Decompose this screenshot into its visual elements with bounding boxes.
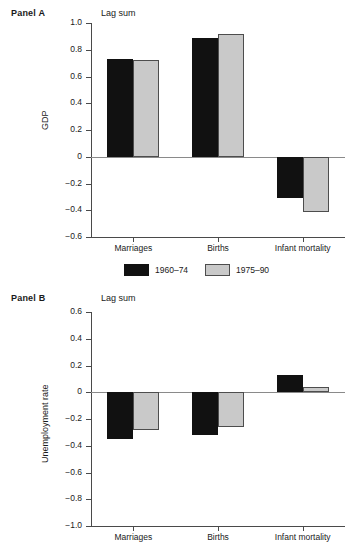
y-axis-tick-label: −0.6 [65, 467, 82, 477]
bar-panel-b-2-1 [303, 387, 329, 392]
y-axis-tick-label: 1.0 [70, 17, 82, 27]
x-axis-tick-label: Births [207, 532, 229, 542]
y-axis-tick-label: 0.2 [70, 360, 82, 370]
y-axis-tick-label: −0.4 [65, 204, 82, 214]
panel-b-annotation: Lag sum [101, 293, 136, 303]
y-axis-tick: −0.2 [86, 419, 91, 420]
panel-a-annotation: Lag sum [101, 8, 136, 18]
y-axis-tick-label: −0.2 [65, 413, 82, 423]
y-axis-tick-label: 0.6 [70, 71, 82, 81]
bar-panel-b-0-0 [107, 392, 133, 439]
x-axis-tick-label: Marriages [114, 532, 152, 542]
chart-legend: 1960–74 1975–90 [0, 262, 351, 282]
y-axis-tick-label: 0 [77, 386, 82, 396]
y-axis-tick: −0.6 [86, 473, 91, 474]
bar-panel-b-2-0 [277, 375, 303, 392]
panel-b-plot-area: 0.60.40.20−0.2−0.4−0.6−0.8−1.0MarriagesB… [91, 312, 345, 526]
y-axis-tick: −0.4 [86, 446, 91, 447]
y-axis-tick: 0.2 [86, 130, 91, 131]
panel-a-label: Panel A [11, 8, 45, 18]
light-swatch-icon [205, 264, 230, 276]
bar-panel-a-2-0 [277, 157, 303, 198]
bar-panel-a-0-0 [107, 59, 133, 157]
panel-a-plot-area: 1.00.80.60.40.20−0.2−0.4−0.6MarriagesBir… [91, 23, 345, 237]
dark-swatch-icon [124, 264, 149, 276]
y-axis-tick-label: 0.4 [70, 333, 82, 343]
legend-item-1975-90: 1975–90 [205, 264, 269, 276]
y-axis-tick: 1.0 [86, 23, 91, 24]
x-axis-tick-label: Infant mortality [275, 532, 331, 542]
y-axis-tick: 0.2 [86, 366, 91, 367]
y-axis-tick: 0.6 [86, 312, 91, 313]
y-axis-tick-label: 0 [77, 151, 82, 161]
figure-canvas: Panel A Lag sum GDP 1.00.80.60.40.20−0.2… [0, 0, 351, 547]
x-axis-tick [133, 526, 134, 531]
panel-b-y-axis-title: Unemployment rate [40, 384, 50, 463]
y-axis-tick-label: −0.4 [65, 440, 82, 450]
panel-a-y-axis-title: GDP [40, 110, 50, 130]
bar-panel-a-1-0 [192, 38, 218, 157]
x-axis-tick-label: Infant mortality [275, 243, 331, 253]
bar-panel-a-0-1 [133, 60, 159, 156]
panel-b-y-axis-line [91, 312, 92, 526]
y-axis-tick: 0.4 [86, 103, 91, 104]
y-axis-tick-label: 0.4 [70, 97, 82, 107]
x-axis-tick [303, 237, 304, 242]
x-axis-tick [133, 237, 134, 242]
bar-panel-b-1-1 [218, 392, 244, 427]
bar-panel-a-2-1 [303, 157, 329, 212]
panel-b-label: Panel B [11, 293, 45, 303]
y-axis-tick-label: 0.6 [70, 306, 82, 316]
y-axis-tick-label: −0.8 [65, 493, 82, 503]
x-axis-tick-label: Births [207, 243, 229, 253]
bar-panel-b-0-1 [133, 392, 159, 429]
legend-label: 1975–90 [236, 265, 269, 275]
x-axis-tick-label: Marriages [114, 243, 152, 253]
legend-label: 1960–74 [155, 265, 188, 275]
chart-panel-a: Panel A Lag sum GDP 1.00.80.60.40.20−0.2… [0, 0, 351, 256]
y-axis-tick: −0.4 [86, 210, 91, 211]
y-axis-tick-label: 0.8 [70, 44, 82, 54]
y-axis-tick: −0.8 [86, 499, 91, 500]
y-axis-tick-label: −0.2 [65, 178, 82, 188]
bar-panel-a-1-1 [218, 34, 244, 157]
y-axis-tick-label: −1.0 [65, 520, 82, 530]
x-axis-tick [303, 526, 304, 531]
bar-panel-b-1-0 [192, 392, 218, 435]
legend-item-1960-74: 1960–74 [124, 264, 188, 276]
y-axis-tick: 0.8 [86, 50, 91, 51]
y-axis-tick-label: −0.6 [65, 231, 82, 241]
y-axis-tick: 0.4 [86, 339, 91, 340]
x-axis-tick [218, 526, 219, 531]
chart-panel-b: Panel B Lag sum Unemployment rate 0.60.4… [0, 285, 351, 547]
y-axis-tick: −0.2 [86, 184, 91, 185]
panel-a-y-axis-line [91, 23, 92, 237]
y-axis-tick: 0.6 [86, 77, 91, 78]
x-axis-tick [218, 237, 219, 242]
y-axis-tick-label: 0.2 [70, 124, 82, 134]
